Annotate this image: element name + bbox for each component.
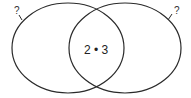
venn-diagram: ? ? 2 • 3 bbox=[0, 0, 191, 98]
right-label-leader bbox=[168, 14, 172, 20]
intersection-label: 2 • 3 bbox=[84, 43, 109, 57]
right-set-label: ? bbox=[174, 5, 180, 16]
left-set-label: ? bbox=[14, 5, 20, 16]
